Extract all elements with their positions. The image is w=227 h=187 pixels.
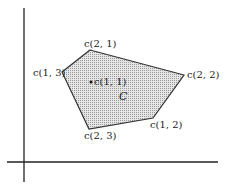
- center-point: [90, 81, 93, 84]
- label-c13: c(1, 3): [33, 67, 66, 78]
- label-c23: c(2, 3): [84, 130, 117, 141]
- label-c11: c(1, 1): [94, 76, 127, 87]
- label-c22: c(2, 2): [187, 69, 220, 80]
- diagram-canvas: c(2, 1) c(2, 2) c(1, 2) c(2, 3) c(1, 3) …: [0, 0, 227, 187]
- label-c12: c(1, 2): [150, 119, 183, 130]
- diagram-svg: c(2, 1) c(2, 2) c(1, 2) c(2, 3) c(1, 3) …: [0, 0, 227, 187]
- region-label: C: [119, 90, 128, 103]
- label-c21: c(2, 1): [84, 38, 117, 49]
